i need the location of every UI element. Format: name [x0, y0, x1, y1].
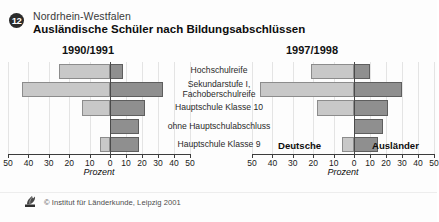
axis-tick [110, 154, 111, 158]
figure-header: 12 Nordrhein-Westfalen Ausländische Schü… [0, 8, 437, 42]
axis-tick [252, 154, 253, 158]
axis-tick-label: 20 [381, 158, 390, 168]
axis-tick-label: 10 [329, 158, 338, 168]
axis-tick [8, 154, 9, 158]
bar-deutsche [22, 82, 110, 97]
axis-tick-label: 50 [185, 158, 194, 168]
axis-tick [313, 154, 314, 158]
bar-auslnder [354, 100, 388, 115]
category-label: Hauptschule Klasse 10 [128, 103, 310, 113]
axis-tick-label: 40 [268, 158, 277, 168]
axis-tick [158, 154, 159, 158]
x-axis-1990 [8, 154, 190, 155]
footer-divider [0, 192, 437, 193]
bar-deutsche [317, 100, 354, 115]
x-axis-title-1997: Prozent [252, 167, 434, 177]
axis-tick-label: 20 [309, 158, 318, 168]
axis-tick-label: 0 [108, 158, 113, 168]
axis-tick-label: 50 [247, 158, 256, 168]
axis-tick-label: 50 [3, 158, 12, 168]
category-label: Sekundarstufe I,Fachoberschulreife [128, 80, 310, 99]
axis-tick [418, 154, 419, 158]
bar-deutsche [59, 64, 110, 79]
axis-tick-label: 30 [44, 158, 53, 168]
axis-tick-label: 10 [121, 158, 130, 168]
category-label-line: Hauptschule Klasse 10 [128, 103, 310, 113]
axis-tick-label: 30 [153, 158, 162, 168]
axis-tick [272, 154, 273, 158]
axis-tick [142, 154, 143, 158]
bar-deutsche [342, 137, 354, 152]
figure-footer: © Institut für Länderkunde, Leipzig 2001 [0, 192, 437, 222]
institute-logo-icon [22, 194, 39, 209]
axis-tick [386, 154, 387, 158]
zero-line [354, 62, 355, 154]
gridline [434, 62, 435, 154]
axis-tick [334, 154, 335, 158]
axis-tick [402, 154, 403, 158]
category-label: ohne Hauptschulabschluss [128, 122, 310, 132]
axis-tick-label: 20 [137, 158, 146, 168]
bar-deutsche [82, 100, 111, 115]
axis-tick [49, 154, 50, 158]
axis-tick [190, 154, 191, 158]
bar-deutsche [311, 64, 354, 79]
bar-auslnder [110, 64, 123, 79]
axis-tick-label: 20 [65, 158, 74, 168]
panel-heading-left: 1990/1991 [62, 44, 114, 56]
axis-tick [126, 154, 127, 158]
figure-number-badge: 12 [9, 13, 24, 28]
bar-deutsche [100, 137, 110, 152]
zero-line [110, 62, 111, 154]
axis-tick [293, 154, 294, 158]
axis-tick [69, 154, 70, 158]
legend-label-deutsche: Deutsche [278, 140, 321, 151]
axis-tick-label: 0 [352, 158, 357, 168]
category-label-line: Hochschulreife [128, 66, 310, 76]
x-axis-title-1990: Prozent [8, 167, 190, 177]
x-axis-1997 [252, 154, 434, 155]
region-subtitle: Nordrhein-Westfalen [33, 10, 131, 22]
axis-tick-label: 40 [169, 158, 178, 168]
copyright-text: © Institut für Länderkunde, Leipzig 2001 [44, 198, 181, 207]
panel-heading-right: 1997/1998 [286, 44, 338, 56]
legend-label-auslaender: Ausländer [372, 140, 419, 151]
category-label: Hochschulreife [128, 66, 310, 76]
axis-tick [434, 154, 435, 158]
axis-tick [174, 154, 175, 158]
axis-tick [28, 154, 29, 158]
bar-auslnder [354, 119, 383, 134]
axis-tick-label: 40 [413, 158, 422, 168]
category-label-line: ohne Hauptschulabschluss [128, 122, 310, 132]
page-title: Ausländische Schüler nach Bildungsabschl… [33, 23, 305, 35]
axis-tick [354, 154, 355, 158]
category-label-line: Fachoberschulreife [128, 90, 310, 100]
axis-tick [370, 154, 371, 158]
axis-tick [90, 154, 91, 158]
axis-tick-label: 30 [397, 158, 406, 168]
bar-auslnder [354, 82, 402, 97]
axis-tick-label: 10 [365, 158, 374, 168]
axis-tick-label: 30 [288, 158, 297, 168]
axis-tick-label: 40 [24, 158, 33, 168]
axis-tick-label: 10 [85, 158, 94, 168]
axis-tick-label: 50 [429, 158, 438, 168]
bar-auslnder [354, 64, 370, 79]
